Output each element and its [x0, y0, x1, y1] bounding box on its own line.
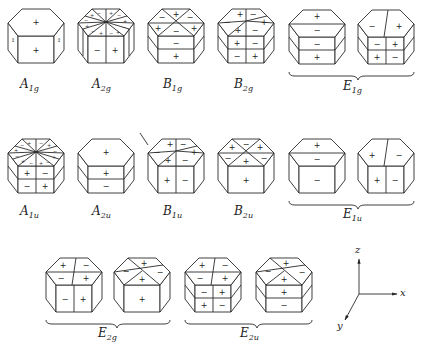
svg-text:−: −	[83, 261, 90, 270]
svg-text:−: −	[117, 12, 121, 18]
prism-E1u-left: + − −	[289, 139, 345, 193]
label-E2g: E2g	[98, 326, 117, 342]
svg-text:−: −	[252, 26, 259, 35]
prism-B1g: + − − + + − − +	[148, 9, 204, 63]
svg-text:+: +	[243, 176, 250, 185]
svg-text:↕: ↕	[11, 37, 15, 43]
svg-text:↕: ↕	[57, 37, 61, 43]
svg-text:−: −	[392, 176, 399, 185]
svg-text:+: +	[396, 22, 403, 31]
svg-text:−: −	[219, 301, 226, 310]
svg-text:−: −	[392, 53, 399, 62]
prism-B2u: − + + − − + +	[218, 139, 274, 193]
svg-text:−: −	[24, 182, 31, 191]
svg-text:+: +	[112, 46, 119, 55]
svg-text:−: −	[314, 155, 321, 164]
label-E2u: E2u	[240, 326, 259, 342]
label-B1g: B1g	[163, 77, 182, 93]
svg-text:−: −	[182, 176, 189, 185]
svg-text:+: +	[139, 275, 146, 284]
svg-text:−: −	[369, 22, 376, 31]
svg-text:+: +	[83, 274, 90, 283]
prism-E2u-right: + − − + + −	[256, 258, 312, 312]
prism-A1u: +− +− +− +− +− +− + − − +	[8, 139, 64, 193]
svg-text:+: +	[219, 288, 226, 297]
svg-text:+: +	[243, 157, 250, 166]
svg-text:+: +	[24, 169, 31, 178]
prism-A1g: + + ↕ ↕	[8, 9, 64, 63]
svg-text:+: +	[392, 40, 399, 49]
svg-text:+: +	[369, 151, 376, 160]
svg-text:+: +	[173, 10, 180, 19]
svg-text:+: +	[237, 10, 244, 19]
svg-text:−: −	[197, 274, 204, 283]
svg-text:+: +	[103, 169, 110, 178]
svg-text:+: +	[47, 142, 51, 148]
svg-text:+: +	[314, 53, 321, 62]
svg-text:+: +	[229, 143, 236, 152]
svg-text:+: +	[141, 259, 148, 268]
svg-text:−: −	[314, 176, 321, 185]
label-B2u: B2u	[234, 204, 253, 220]
svg-text:−: −	[157, 268, 164, 277]
svg-text:+: +	[33, 46, 40, 55]
svg-text:−: −	[281, 301, 288, 310]
axis-label-z: z	[355, 244, 360, 255]
svg-text:−: −	[58, 274, 65, 283]
svg-text:+: +	[103, 148, 110, 157]
prism-E1g-right: − + − + + −	[358, 10, 414, 64]
svg-text:+: +	[27, 140, 31, 146]
label-A2u: A2u	[92, 204, 111, 220]
svg-text:+: +	[283, 259, 290, 268]
svg-text:+: +	[21, 158, 25, 164]
svg-text:−: −	[222, 261, 229, 270]
svg-text:−: −	[97, 10, 101, 16]
svg-text:+: +	[109, 10, 113, 16]
svg-text:+: +	[60, 261, 67, 270]
prism-B2g: + − − + + − + − − +	[218, 9, 274, 63]
svg-text:−: −	[201, 288, 208, 297]
svg-text:−: −	[299, 268, 306, 277]
svg-text:+: +	[80, 295, 87, 304]
prism-E2u-left: + − − + − + + −	[185, 258, 241, 312]
svg-text:−: −	[159, 13, 166, 22]
svg-text:+: +	[14, 147, 18, 153]
svg-text:+: +	[374, 176, 381, 185]
svg-text:+: +	[139, 295, 146, 304]
label-E1u: E1u	[343, 207, 362, 223]
prism-E2g-right: + − − + +	[114, 258, 170, 312]
svg-text:+: +	[173, 52, 180, 61]
svg-text:+: +	[42, 182, 49, 191]
svg-text:−: −	[91, 28, 95, 34]
svg-text:+: +	[235, 26, 242, 35]
svg-text:−: −	[42, 169, 49, 178]
svg-text:+: +	[201, 301, 208, 310]
svg-text:+: +	[85, 23, 89, 29]
svg-text:−: −	[29, 160, 33, 166]
svg-text:−: −	[15, 153, 19, 159]
svg-text:−: −	[225, 154, 232, 163]
svg-text:−: −	[154, 148, 161, 157]
svg-text:+: +	[164, 176, 171, 185]
svg-text:−: −	[94, 46, 101, 55]
label-B1u: B1u	[163, 204, 182, 220]
svg-text:−: −	[250, 10, 257, 19]
svg-text:−: −	[243, 140, 250, 149]
prism-E1g-left: + − − +	[289, 10, 345, 64]
svg-text:+: +	[222, 274, 229, 283]
svg-text:+: +	[155, 24, 162, 33]
svg-text:−: −	[46, 159, 50, 165]
svg-text:−: −	[224, 18, 231, 27]
svg-text:+: +	[167, 140, 174, 149]
svg-text:+: +	[39, 160, 43, 166]
svg-text:+: +	[257, 143, 264, 152]
svg-text:+: +	[234, 39, 241, 48]
svg-text:−: −	[261, 154, 268, 163]
svg-text:−: −	[187, 13, 194, 22]
svg-text:+: +	[33, 18, 40, 27]
svg-text:−: −	[396, 151, 403, 160]
svg-text:+: +	[165, 156, 172, 165]
label-A1u: A1u	[20, 204, 39, 220]
svg-text:+: +	[281, 288, 288, 297]
svg-text:+: +	[252, 52, 259, 61]
